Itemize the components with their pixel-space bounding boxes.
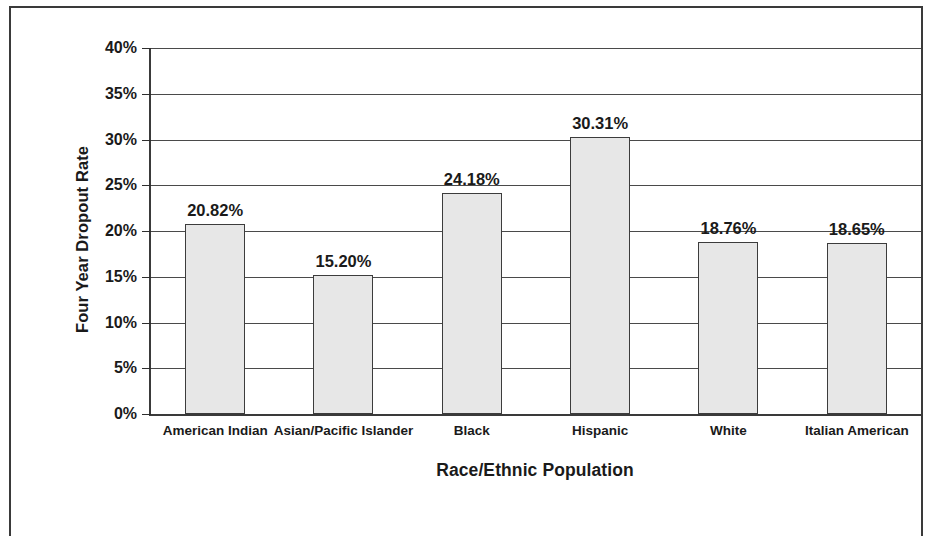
bar-value-label: 20.82% bbox=[187, 201, 243, 220]
x-axis-category-label: Hispanic bbox=[572, 423, 628, 438]
bar-value-label: 30.31% bbox=[572, 114, 628, 133]
y-axis-tick-label: 20% bbox=[105, 222, 137, 240]
bar-value-label: 18.76% bbox=[701, 219, 757, 238]
y-axis-tick bbox=[142, 231, 151, 232]
y-axis-tick-label: 25% bbox=[105, 176, 137, 194]
bar[interactable]: 18.65% bbox=[827, 243, 887, 414]
bar[interactable]: 15.20% bbox=[313, 275, 373, 414]
y-axis-tick-label: 5% bbox=[114, 359, 137, 377]
bar[interactable]: 24.18% bbox=[442, 193, 502, 414]
y-axis-tick-label: 40% bbox=[105, 39, 137, 57]
y-axis-title: Four Year Dropout Rate bbox=[73, 125, 92, 355]
bar-value-label: 24.18% bbox=[444, 170, 500, 189]
y-axis-tick bbox=[142, 48, 151, 49]
y-axis-tick-label: 15% bbox=[105, 268, 137, 286]
y-axis-tick-label: 10% bbox=[105, 314, 137, 332]
y-axis-tick bbox=[142, 414, 151, 415]
bar-group: 20.82%American Indian bbox=[151, 48, 279, 414]
bar-value-label: 18.65% bbox=[829, 220, 885, 239]
bar-group: 18.76%White bbox=[664, 48, 792, 414]
y-axis-tick bbox=[142, 185, 151, 186]
y-axis-tick bbox=[142, 94, 151, 95]
x-axis-category-label: American Indian bbox=[163, 423, 268, 438]
bar[interactable]: 20.82% bbox=[185, 224, 245, 415]
bar[interactable]: 30.31% bbox=[570, 137, 630, 414]
y-axis-tick bbox=[142, 368, 151, 369]
bar-group: 18.65%Italian American bbox=[793, 48, 921, 414]
x-axis-category-label: Asian/Pacific Islander bbox=[274, 423, 414, 438]
x-axis-category-label: White bbox=[710, 423, 747, 438]
x-axis-category-label: Italian American bbox=[805, 423, 909, 438]
y-axis-tick bbox=[142, 323, 151, 324]
x-axis-title: Race/Ethnic Population bbox=[149, 460, 921, 481]
y-axis-tick bbox=[142, 277, 151, 278]
bar-group: 30.31%Hispanic bbox=[536, 48, 664, 414]
y-axis-tick-label: 35% bbox=[105, 85, 137, 103]
chart-frame-border: Four Year Dropout Rate 0%5%10%15%20%25%3… bbox=[9, 6, 923, 536]
bar-group: 15.20%Asian/Pacific Islander bbox=[279, 48, 407, 414]
bar-group: 24.18%Black bbox=[408, 48, 536, 414]
y-axis-tick bbox=[142, 140, 151, 141]
plot-area: 0%5%10%15%20%25%30%35%40%20.82%American … bbox=[149, 48, 921, 416]
bar[interactable]: 18.76% bbox=[698, 242, 758, 414]
y-axis-tick-label: 30% bbox=[105, 131, 137, 149]
x-axis-category-label: Black bbox=[454, 423, 490, 438]
bar-value-label: 15.20% bbox=[316, 252, 372, 271]
y-axis-tick-label: 0% bbox=[114, 405, 137, 423]
